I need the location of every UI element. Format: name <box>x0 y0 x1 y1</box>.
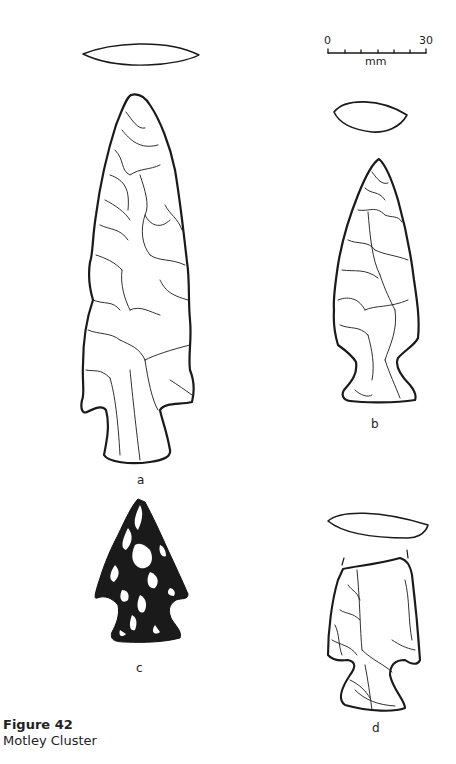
specimen-c-label: c <box>136 661 143 675</box>
figure-number: Figure 42 <box>3 717 97 733</box>
specimen-d-break-mark-right <box>407 550 408 558</box>
scale-bar-end-label: 30 <box>419 34 433 47</box>
specimen-d-cross-section <box>328 513 428 538</box>
specimen-a-label: a <box>137 473 144 487</box>
figure-artwork <box>0 0 456 764</box>
specimen-a-cross-section <box>83 44 199 65</box>
specimen-d-drawing <box>328 513 428 711</box>
specimen-c-silhouette <box>95 499 188 642</box>
specimen-a-outline <box>81 94 193 463</box>
scale-bar-start-label: 0 <box>324 34 331 47</box>
specimen-d-label: d <box>372 721 380 735</box>
scale-bar-unit-label: mm <box>365 55 386 68</box>
scale-bar <box>328 49 426 53</box>
figure-title: Motley Cluster <box>3 733 97 749</box>
specimen-d-outline <box>328 558 420 711</box>
specimen-b-drawing <box>334 102 419 403</box>
specimen-c-drawing <box>95 499 188 642</box>
specimen-b-cross-section <box>334 102 407 132</box>
specimen-b-label: b <box>371 417 379 431</box>
specimen-a-drawing <box>81 44 199 463</box>
specimen-d-break-mark-left <box>342 558 344 565</box>
specimen-b-outline <box>334 159 419 402</box>
figure-caption: Figure 42 Motley Cluster <box>3 717 97 749</box>
